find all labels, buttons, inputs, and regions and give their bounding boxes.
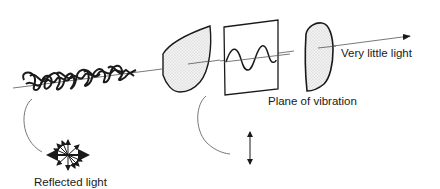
reflection-arc [24, 99, 42, 152]
diagram-graphic [0, 0, 440, 189]
unpolarized-light-scribble [23, 66, 136, 90]
polarization-diagram: Very little light Plane of vibration Ref… [0, 0, 440, 189]
beam-arrow [13, 36, 410, 88]
reflected-light-label: Reflected light [34, 177, 107, 189]
plane-of-vibration-label: Plane of vibration [268, 96, 357, 108]
second-filter [305, 23, 333, 91]
reflected-light-arrows-icon [48, 140, 88, 170]
plane-arc [198, 96, 230, 154]
first-filter [163, 26, 211, 92]
very-little-light-label: Very little light [341, 48, 412, 60]
plane-of-vibration-panel [224, 20, 290, 95]
